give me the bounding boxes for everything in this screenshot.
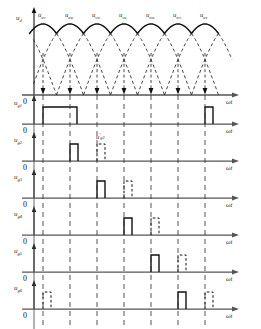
sine-tail-dashed [33, 39, 56, 95]
row-omega-t-g4: ωt [226, 238, 233, 245]
gate-pulse-g6-0 [43, 292, 51, 309]
commutation-arrowhead-4 [149, 88, 154, 95]
row-name-g2: ug2 [14, 136, 23, 145]
commutation-arrowhead-0 [41, 88, 46, 95]
segment-label-vu: uvu [119, 11, 126, 20]
ud-zero-label: 0 [23, 97, 27, 106]
gate-pulse-g5-0 [151, 255, 159, 272]
timing-diagram-svg: 0ωtuduuvuuwuvwuvuuwuuwvuuv0ωtug10ωtug20ω… [0, 0, 261, 329]
rectified-arc [57, 24, 84, 34]
row-omega-t-g3: ωt [226, 201, 233, 208]
commutation-arrowhead-1 [68, 88, 73, 95]
row-omega-t-g6: ωt [226, 312, 233, 319]
row-name-g4: ug4 [14, 210, 23, 219]
svg-text:ug2: ug2 [14, 136, 23, 145]
segment-label-wu: uwu [146, 11, 154, 20]
ud-axis-name: ud [16, 14, 23, 23]
svg-text:uvw: uvw [92, 11, 100, 20]
ud-axis-arrowhead [32, 7, 37, 13]
gate-pulse-g5-1 [178, 255, 186, 272]
svg-text:uuw: uuw [65, 11, 73, 20]
gate-pulse-g3-1 [124, 181, 132, 198]
row-name-g3: ug3 [14, 173, 23, 182]
commutation-arrowhead-2 [95, 88, 100, 95]
row-zero-label-g2: 0 [23, 163, 27, 172]
svg-text:ug1: ug1 [14, 99, 22, 108]
row-omega-t-g5: ωt [226, 275, 233, 282]
svg-text:ug3: ug3 [14, 173, 23, 182]
row-omega-t-g2: ωt [226, 164, 233, 171]
segment-label-uv: uuv [38, 11, 45, 20]
sine-tail-dashed [33, 34, 56, 85]
figure-canvas: 0ωtuduuvuuwuvwuvuuwuuwvuuv0ωtug10ωtug20ω… [0, 0, 261, 329]
row-zero-label-g1: 0 [23, 126, 27, 135]
rectified-arc [84, 24, 111, 34]
segment-label-vw: uvw [92, 11, 100, 20]
gate-pulse-g6-2 [205, 292, 213, 309]
row-axis-arrow-g5 [232, 270, 239, 275]
segment-label-uv: uuv [200, 11, 207, 20]
gate-pulse-g1-1 [205, 107, 213, 124]
row-axis-arrow-g3 [232, 196, 239, 201]
gate-pulse-g2-1 [97, 144, 105, 161]
commutation-arrowhead-6 [203, 88, 208, 95]
gate-pulse-g2-0 [70, 144, 78, 161]
gate-pulse-g3-0 [97, 181, 105, 198]
svg-text:uuv: uuv [200, 11, 207, 20]
row-zero-label-g3: 0 [23, 200, 27, 209]
row-axis-arrow-g4 [232, 233, 239, 238]
svg-text:uuv: uuv [38, 11, 45, 20]
svg-text:uwu: uwu [146, 11, 154, 20]
ud-axis-arrow [232, 92, 239, 97]
row-name-g6: ug6 [14, 284, 23, 293]
segment-label-uw: uuw [65, 11, 73, 20]
segment-label-wv: uwv [173, 11, 181, 20]
gate-pulse-g6-1 [178, 292, 186, 309]
commutation-arrowhead-5 [176, 88, 181, 95]
svg-text:ug4: ug4 [14, 210, 23, 219]
row-zero-label-g6: 0 [23, 311, 27, 320]
commutation-arrowhead-3 [122, 88, 127, 95]
sine-tail-dashed [219, 34, 233, 60]
gate-pulse-g4-1 [151, 218, 159, 235]
svg-text:uvu: uvu [119, 11, 126, 20]
gate-pulse-g4-0 [124, 218, 132, 235]
svg-text:ug5: ug5 [14, 247, 23, 256]
rectified-arc [192, 24, 219, 34]
row-axis-arrow-g6 [232, 307, 239, 312]
row-zero-label-g4: 0 [23, 237, 27, 246]
gate-pulse-g1-0 [43, 107, 77, 124]
svg-text:ug6: ug6 [14, 284, 23, 293]
row-axis-arrow-g2 [232, 159, 239, 164]
rectified-arc [165, 24, 192, 34]
svg-text:ud: ud [16, 14, 23, 23]
rectified-arc [111, 24, 138, 34]
rectified-arc [138, 24, 165, 34]
row-name-g1: ug1 [14, 99, 22, 108]
svg-text:uwv: uwv [173, 11, 181, 20]
ud-omega-t-label: ωt [226, 98, 233, 105]
row-omega-t-g1: ωt [226, 127, 233, 134]
row-name-g5: ug5 [14, 247, 23, 256]
row-zero-label-g5: 0 [23, 274, 27, 283]
row-axis-arrow-g1 [232, 122, 239, 127]
